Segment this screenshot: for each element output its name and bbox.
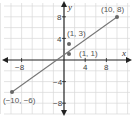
coordinate-plane: x y −8 4 8 8 4 −4 −8 (10, 8) (1, 3) (1, … — [0, 0, 135, 117]
y-axis-label: y — [67, 2, 72, 12]
y-tick-label: −4 — [53, 78, 63, 87]
y-tick-label: 8 — [57, 13, 62, 22]
y-axis-arrow-down-icon — [61, 110, 67, 116]
point-label: (10, 8) — [101, 5, 124, 14]
x-tick-label: 8 — [104, 63, 109, 72]
y-axis-arrow-up-icon — [61, 1, 67, 7]
x-axis-arrow-right-icon — [126, 57, 132, 63]
point-marker — [67, 52, 71, 56]
point-marker — [10, 90, 14, 94]
point-marker — [67, 42, 71, 46]
point-label: (1, 1) — [79, 49, 98, 58]
x-tick-label: 4 — [83, 63, 88, 72]
x-axis-arrow-left-icon — [2, 57, 8, 63]
y-tick-label: −8 — [53, 99, 63, 108]
point-marker — [115, 15, 119, 19]
point-label: (1, 3) — [67, 29, 86, 38]
point-label: (−10, −6) — [3, 96, 36, 105]
x-axis-label: x — [121, 48, 126, 58]
y-tick-label: 4 — [57, 35, 62, 44]
x-tick-label: −8 — [15, 63, 25, 72]
